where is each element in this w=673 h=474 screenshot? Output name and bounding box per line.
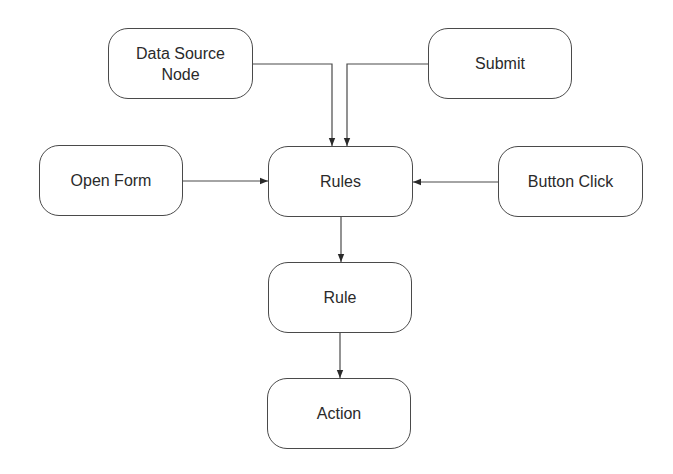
node-rule: Rule (268, 262, 412, 333)
node-label: Action (317, 403, 361, 424)
node-label-line1: Data Source (136, 43, 225, 64)
node-open-form: Open Form (39, 145, 183, 216)
node-submit: Submit (428, 28, 572, 99)
node-label: Submit (475, 53, 525, 74)
edge-data-source-to-rules (253, 64, 332, 146)
node-label-line2: Node (136, 64, 225, 85)
edge-submit-to-rules (347, 64, 428, 146)
node-label: Rule (324, 287, 357, 308)
node-data-source-node: Data Source Node (108, 28, 253, 99)
node-button-click: Button Click (498, 146, 643, 217)
node-action: Action (267, 378, 411, 449)
node-label: Open Form (71, 170, 152, 191)
node-label: Rules (320, 171, 361, 192)
node-rules: Rules (268, 146, 413, 217)
node-label: Button Click (528, 171, 613, 192)
